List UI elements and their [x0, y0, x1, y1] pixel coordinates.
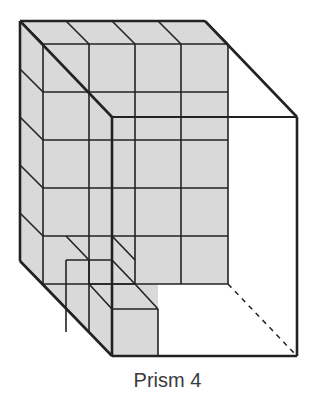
prism-caption: Prism 4	[0, 369, 315, 392]
prism-diagram	[0, 0, 315, 408]
prism-hidden-edge	[228, 284, 295, 354]
